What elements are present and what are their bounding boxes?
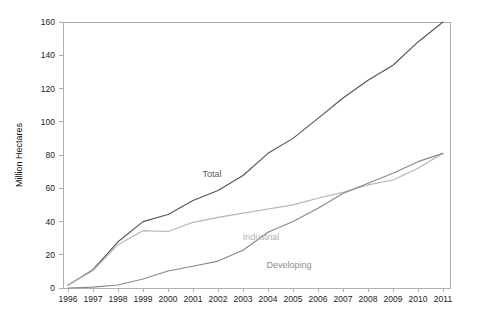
- series-line-developing: [68, 153, 443, 288]
- x-tick-label: 2011: [434, 294, 453, 304]
- x-tick-label: 2004: [259, 294, 278, 304]
- x-tick-label: 1997: [84, 294, 103, 304]
- x-tick-label: 1996: [59, 294, 78, 304]
- y-axis-title-text: Million Hectares: [14, 122, 24, 187]
- series-lines: [68, 22, 443, 288]
- x-tick-label: 2002: [209, 294, 228, 304]
- x-tick-label: 2007: [334, 294, 353, 304]
- series-line-industrial: [68, 153, 443, 285]
- y-tick-label: 160: [41, 17, 55, 27]
- x-tick-label: 1998: [109, 294, 128, 304]
- series-annotations: TotalIndustrialDeveloping: [202, 169, 311, 270]
- x-tick-label: 2006: [309, 294, 328, 304]
- annotation-developing: Developing: [266, 260, 311, 270]
- x-tick-label: 2008: [359, 294, 378, 304]
- series-line-total: [68, 22, 443, 285]
- y-axis-ticks: 020406080100120140160: [41, 17, 63, 293]
- plot-frame: [63, 22, 450, 288]
- y-tick-label: 0: [50, 283, 55, 293]
- axes: [63, 22, 450, 288]
- x-axis-ticks: 1996199719981999200020012002200320042005…: [59, 288, 453, 304]
- y-tick-label: 80: [46, 150, 56, 160]
- x-tick-label: 2005: [284, 294, 303, 304]
- y-tick-label: 140: [41, 50, 55, 60]
- y-tick-label: 100: [41, 117, 55, 127]
- line-chart: 020406080100120140160 199619971998199920…: [0, 0, 477, 320]
- x-tick-label: 2000: [159, 294, 178, 304]
- x-tick-label: 2010: [409, 294, 428, 304]
- annotation-total: Total: [202, 169, 221, 179]
- y-axis-title: Million Hectares: [14, 122, 24, 187]
- x-tick-label: 1999: [134, 294, 153, 304]
- y-tick-label: 20: [46, 250, 56, 260]
- chart-container: 020406080100120140160 199619971998199920…: [0, 0, 477, 320]
- x-tick-label: 2003: [234, 294, 253, 304]
- x-tick-label: 2009: [384, 294, 403, 304]
- x-tick-label: 2001: [184, 294, 203, 304]
- y-tick-label: 40: [46, 217, 56, 227]
- annotation-industrial: Industrial: [243, 232, 280, 242]
- y-tick-label: 120: [41, 84, 55, 94]
- y-tick-label: 60: [46, 183, 56, 193]
